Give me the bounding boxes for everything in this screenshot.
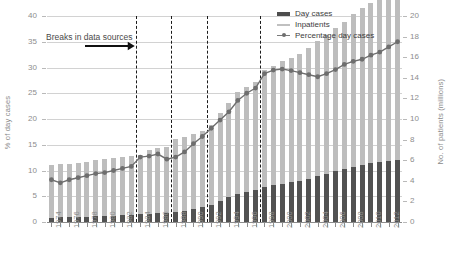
x-tick-label: 1974 — [54, 211, 63, 228]
bar-segment-inpatients — [289, 58, 294, 183]
bar-stack — [84, 162, 89, 222]
y-tick-label-left: 25 — [15, 88, 37, 97]
bar-segment-inpatients — [218, 113, 223, 202]
bar-segment-inpatients — [280, 61, 285, 184]
x-tick-mark — [282, 223, 283, 227]
bar-stack — [262, 70, 267, 222]
y-axis-left-title: % of day cases — [3, 88, 12, 158]
bar-stack — [306, 48, 311, 222]
bar-segment-day-cases — [368, 163, 373, 222]
y-tick-label-right: 16 — [410, 52, 434, 61]
y-tick-label-left: 40 — [15, 11, 37, 20]
y-tick-label-left: 10 — [15, 166, 37, 175]
bar-segment-inpatients — [235, 92, 240, 194]
x-tick-label: 2002 — [303, 211, 312, 228]
x-tick-mark — [51, 223, 52, 227]
chart-container: % of day cases No. of patients (millions… — [0, 0, 459, 262]
bar-stack — [67, 164, 72, 222]
y-tick-mark — [42, 196, 46, 197]
y-tick-label-left: 30 — [15, 63, 37, 72]
bar-segment-inpatients — [93, 160, 98, 216]
gridline — [47, 119, 402, 120]
gridline — [47, 196, 402, 197]
bar-stack — [155, 148, 160, 222]
y2-tick-mark — [403, 16, 407, 17]
bar-segment-inpatients — [386, 0, 391, 161]
bar-segment-inpatients — [253, 82, 258, 190]
data-break-line — [136, 16, 137, 222]
data-break-line — [260, 16, 261, 222]
bar-segment-inpatients — [244, 87, 249, 192]
legend-item-day-cases: Day cases — [277, 8, 374, 19]
x-tick-mark — [371, 223, 372, 227]
x-tick-mark — [264, 223, 265, 227]
bar-stack — [342, 22, 347, 222]
x-tick-mark — [335, 223, 336, 227]
bar-segment-day-cases — [155, 213, 160, 222]
x-tick-label: 2010 — [374, 211, 383, 228]
bar-stack — [280, 61, 285, 222]
y-tick-mark — [42, 119, 46, 120]
x-tick-label: 1990 — [196, 211, 205, 228]
y-tick-label-left: 15 — [15, 140, 37, 149]
bar-segment-inpatients — [58, 164, 63, 217]
x-tick-label: 2006 — [338, 211, 347, 228]
x-tick-label: 1978 — [90, 211, 99, 228]
data-break-line — [207, 16, 208, 222]
x-tick-mark — [300, 223, 301, 227]
x-tick-mark — [318, 223, 319, 227]
bar-stack — [271, 66, 276, 222]
bar-stack — [324, 35, 329, 222]
bar-segment-inpatients — [209, 125, 214, 205]
day-cases-swatch-icon — [277, 8, 290, 19]
y-tick-mark — [42, 222, 46, 223]
bar-stack — [289, 58, 294, 222]
y-tick-label-left: 35 — [15, 37, 37, 46]
x-tick-mark — [158, 223, 159, 227]
y-tick-mark — [42, 16, 46, 17]
bar-stack — [182, 137, 187, 222]
annotation-breaks: Breaks in data sources — [46, 32, 132, 42]
bar-segment-inpatients — [182, 137, 187, 211]
x-tick-mark — [353, 223, 354, 227]
y-tick-label-right: 4 — [410, 176, 434, 185]
bar-segment-inpatients — [155, 148, 160, 213]
y-tick-label-right: 12 — [410, 93, 434, 102]
y2-tick-mark — [403, 119, 407, 120]
bar-stack — [200, 131, 205, 222]
x-tick-label: 1976 — [72, 211, 81, 228]
bar-segment-inpatients — [333, 28, 338, 171]
x-tick-mark — [229, 223, 230, 227]
x-tick-label: 2008 — [356, 211, 365, 228]
x-tick-label: 1998 — [267, 211, 276, 228]
bar-segment-inpatients — [49, 165, 54, 218]
inpatients-swatch-icon — [277, 19, 290, 30]
y-tick-mark — [42, 145, 46, 146]
bar-stack — [351, 14, 356, 222]
bar-segment-day-cases — [244, 192, 249, 222]
bar-stack — [395, 0, 400, 222]
bar-segment-inpatients — [173, 139, 178, 212]
x-tick-mark — [176, 223, 177, 227]
y-tick-label-right: 18 — [410, 32, 434, 41]
bar-stack — [209, 125, 214, 222]
x-tick-label: 1984 — [143, 211, 152, 228]
x-tick-label: 1994 — [232, 211, 241, 228]
bar-segment-inpatients — [342, 22, 347, 169]
y-tick-label-right: 20 — [410, 11, 434, 20]
x-tick-mark — [140, 223, 141, 227]
legend-label-percentage: Percentage day cases — [295, 31, 374, 40]
bar-segment-day-cases — [138, 214, 143, 222]
bar-segment-inpatients — [84, 162, 89, 217]
y-tick-label-right: 6 — [410, 155, 434, 164]
x-tick-mark — [389, 223, 390, 227]
x-tick-mark — [69, 223, 70, 227]
bar-segment-day-cases — [315, 176, 320, 222]
x-tick-mark — [211, 223, 212, 227]
x-tick-label: 2000 — [285, 211, 294, 228]
bar-stack — [333, 28, 338, 222]
x-tick-mark — [247, 223, 248, 227]
y-tick-mark — [42, 93, 46, 94]
bar-stack — [138, 155, 143, 222]
bar-stack — [173, 139, 178, 222]
